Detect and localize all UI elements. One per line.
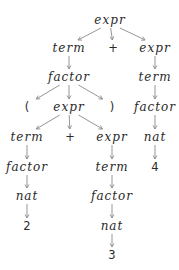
node-expr: expr [139, 41, 170, 55]
edge-arrow [120, 28, 145, 40]
node-term: term [10, 130, 43, 144]
node-expr: expr [53, 100, 84, 114]
node-expr-root: expr [94, 13, 125, 27]
node-literal-3: 3 [108, 248, 115, 262]
node-open-paren: ( [25, 100, 30, 114]
node-plus: + [108, 41, 118, 55]
node-nat: nat [16, 189, 39, 203]
edge-arrow [78, 115, 102, 129]
node-nat: nat [144, 130, 167, 144]
edge-arrow [36, 85, 60, 99]
node-term: term [52, 41, 85, 55]
node-factor: factor [48, 70, 90, 84]
node-factor: factor [91, 189, 133, 203]
node-expr: expr [96, 130, 127, 144]
node-term: term [95, 160, 128, 174]
edge-arrow [69, 115, 70, 129]
node-close-paren: ) [110, 100, 115, 114]
node-plus: + [65, 130, 75, 144]
node-nat: nat [101, 219, 124, 233]
node-factor: factor [134, 100, 176, 114]
node-factor: factor [6, 160, 48, 174]
node-literal-4: 4 [151, 160, 158, 174]
node-literal-2: 2 [23, 219, 30, 233]
edge-arrow [36, 115, 60, 129]
edge-arrow [78, 85, 102, 99]
edge-arrow [78, 28, 101, 40]
node-term: term [138, 70, 171, 84]
parse-tree: expr term + expr factor term ( expr ) fa… [0, 0, 179, 270]
